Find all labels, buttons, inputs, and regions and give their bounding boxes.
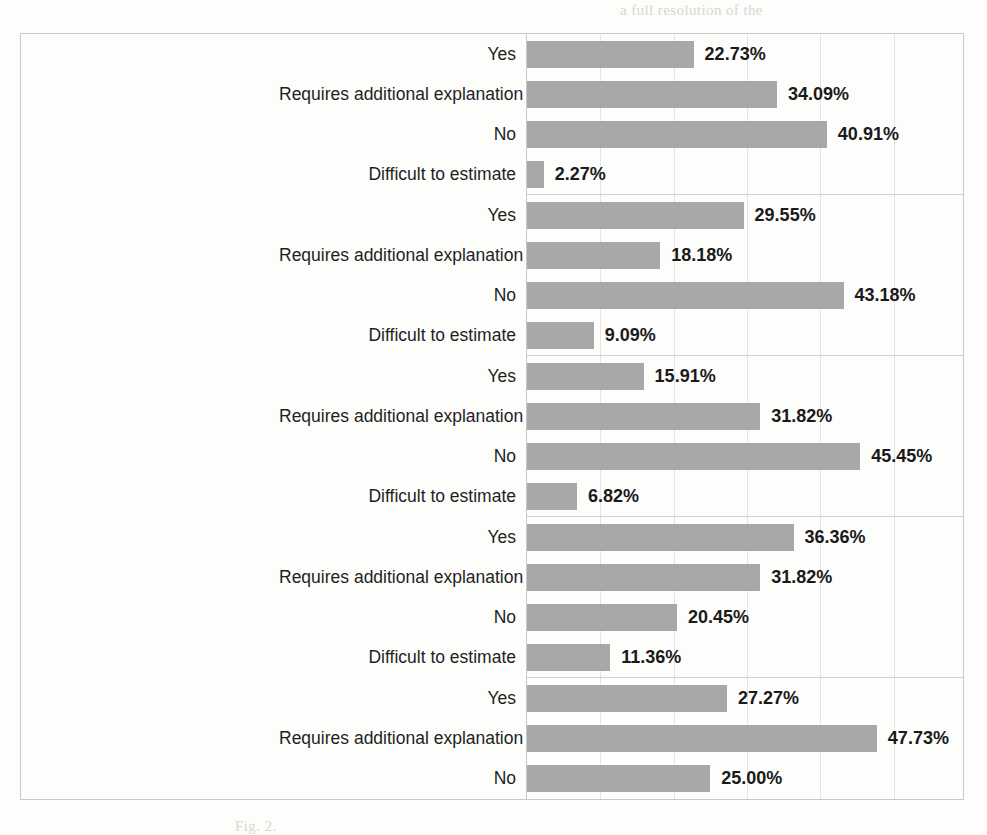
category-label: Requires additional explanation [279,567,527,588]
category-label: Yes [279,366,527,387]
category-label: Difficult to estimate [279,164,527,185]
bar-container: 29.55% [527,202,963,229]
category-label: Yes [279,688,527,709]
category-label: Yes [279,527,527,548]
plot-area: Is readinessbusinessprocesses fortransfo… [21,34,963,799]
bar [527,121,827,148]
category-label: Difficult to estimate [279,486,527,507]
bar-container: 6.82% [527,483,963,510]
category-label: Difficult to estimate [279,647,527,668]
bar-value-label: 40.91% [838,124,899,145]
bar [527,443,860,470]
bar [527,524,794,551]
bar-container: 43.18% [527,282,963,309]
bar-container: 36.36% [527,524,963,551]
bar-value-label: 25.00% [721,768,782,789]
bar-value-label: 11.36% [621,647,681,668]
category-label: No [279,768,527,789]
bar [527,322,594,349]
bleed-text: Fig. 2. [235,818,277,835]
bar-value-label: 45.45% [871,446,932,467]
bar [527,483,577,510]
bleed-text: a full resolution of the [620,2,763,19]
bar-container: 11.36% [527,644,963,671]
bar-container: 20.45% [527,604,963,631]
bar-container: 45.45% [527,443,963,470]
bar-value-label: 34.09% [788,84,849,105]
bar-rows: Yes27.27%Requires additional explanation… [279,678,963,799]
bar-value-label: 31.82% [771,406,832,427]
category-label: Difficult to estimate [279,325,527,346]
bar-container: 47.73% [527,725,963,752]
bar-container: 15.91% [527,363,963,390]
category-label: No [279,607,527,628]
bar-value-label: 43.18% [855,285,916,306]
bar-container: 22.73% [527,41,963,68]
bar [527,242,660,269]
bar [527,564,760,591]
bar-value-label: 29.55% [755,205,816,226]
category-label: No [279,446,527,467]
bar-container: 27.27% [527,685,963,712]
bar [527,765,710,792]
bar-container: 9.09% [527,322,963,349]
category-label: Requires additional explanation [279,406,527,427]
bar [527,282,844,309]
bar-container: 31.82% [527,403,963,430]
bar [527,81,777,108]
bar-container: 2.27% [527,161,963,188]
category-label: Requires additional explanation [279,728,527,749]
bar-value-label: 20.45% [688,607,749,628]
bar [527,41,694,68]
bar-value-label: 6.82% [588,486,639,507]
category-label: Yes [279,44,527,65]
bar [527,363,644,390]
bar-container: 18.18% [527,242,963,269]
category-label: Yes [279,205,527,226]
category-label: Requires additional explanation [279,84,527,105]
bar [527,403,760,430]
bar-value-label: 9.09% [605,325,656,346]
bar-value-label: 15.91% [655,366,716,387]
bar-value-label: 22.73% [705,44,766,65]
category-label: Requires additional explanation [279,245,527,266]
bar-value-label: 27.27% [738,688,799,709]
bar [527,725,877,752]
bar [527,685,727,712]
bar-container: 31.82% [527,564,963,591]
bar-value-label: 36.36% [805,527,866,548]
bar [527,161,544,188]
bar-container: 40.91% [527,121,963,148]
bar-value-label: 2.27% [555,164,606,185]
category-label: No [279,124,527,145]
chart-frame: Is readinessbusinessprocesses fortransfo… [20,33,964,800]
category-label: No [279,285,527,306]
bar [527,604,677,631]
bar-value-label: 18.18% [671,245,732,266]
bar-container: 25.00% [527,765,963,792]
bar [527,202,744,229]
bar [527,644,610,671]
bar-value-label: 47.73% [888,728,949,749]
bar-value-label: 31.82% [771,567,832,588]
bar-container: 34.09% [527,81,963,108]
